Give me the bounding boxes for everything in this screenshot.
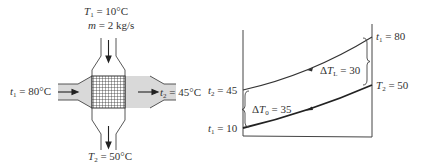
top-inlet-label: T1 = 10°C bbox=[84, 5, 128, 17]
left-inlet-label: t1 = 80°C bbox=[10, 85, 51, 97]
bottom-axis bbox=[243, 136, 372, 137]
cold-curve-arrow-icon bbox=[306, 107, 313, 111]
value: = 50 bbox=[386, 79, 409, 91]
arrow-down-bottom-icon bbox=[106, 126, 111, 148]
value: = 80 bbox=[383, 30, 406, 42]
chart-label-left-top: t2 = 45 bbox=[208, 84, 237, 96]
value: = 50°C bbox=[98, 150, 132, 162]
value: = 10°C bbox=[94, 5, 128, 17]
chart-label-left-bottom: t1 = 10 bbox=[208, 122, 237, 134]
value: = 30 bbox=[337, 64, 360, 76]
value: = 35 bbox=[269, 103, 292, 115]
delta-t0-label: ΔT0 = 35 bbox=[252, 103, 291, 115]
value: = 45 bbox=[215, 84, 238, 96]
right-outlet-label: t2 = 45°C bbox=[160, 86, 201, 98]
temperature-profile-chart bbox=[242, 24, 372, 137]
value: = 80°C bbox=[17, 85, 51, 97]
figure: T1 = 10°C m = 2 kg/s T2 = 50°C t1 = 80°C… bbox=[0, 0, 421, 166]
value: = 45°C bbox=[167, 86, 201, 98]
bottom-outlet-label: T2 = 50°C bbox=[88, 150, 132, 162]
chart-label-right-bottom: T2 = 50 bbox=[376, 79, 408, 91]
delta-tl-brace bbox=[363, 38, 370, 85]
symbol: m bbox=[88, 19, 96, 31]
value: = 10 bbox=[215, 122, 238, 134]
arrow-down-top-icon bbox=[106, 40, 111, 62]
value: = 2 kg/s bbox=[96, 19, 134, 31]
delta-tl-label: ΔTL = 30 bbox=[320, 64, 360, 76]
heat-exchanger-schematic bbox=[0, 0, 421, 166]
exchanger-core-mesh bbox=[92, 76, 125, 108]
chart-label-right-top: t1 = 80 bbox=[376, 30, 405, 42]
mass-flow-label: m = 2 kg/s bbox=[88, 19, 134, 31]
